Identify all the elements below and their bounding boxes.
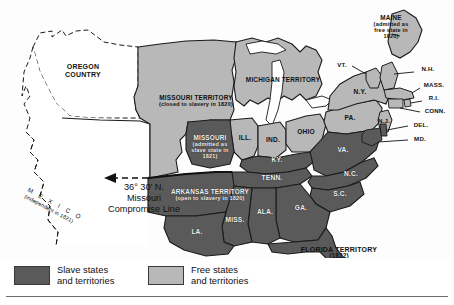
legend-swatch-slave — [14, 266, 50, 285]
leader-ri — [411, 101, 422, 103]
leader-mass — [412, 88, 420, 93]
state-maryland — [362, 128, 382, 146]
missouri-compromise-line-label: 36° 30′ N. Missouri Compromise Line — [84, 182, 204, 216]
legend-item-slave: Slave states and territories — [14, 264, 114, 286]
compromise-line3: Compromise Line — [84, 204, 204, 215]
free-region-group — [134, 10, 422, 178]
legend-label-slave: Slave states and territories — [57, 264, 114, 286]
state-indiana — [258, 122, 286, 158]
state-connecticut — [388, 99, 403, 108]
compromise-degrees: 36° 30′ N. — [84, 182, 204, 193]
leader-vt — [352, 66, 366, 74]
state-rhode-island — [404, 99, 411, 107]
legend-item-free: Free states and territories — [148, 264, 248, 286]
map-legend: Slave states and territories Free states… — [0, 258, 454, 305]
state-new-hampshire — [380, 62, 398, 90]
state-alabama — [248, 188, 280, 244]
leader-conn — [400, 108, 420, 112]
state-massachusetts — [384, 88, 414, 100]
legend-divider — [6, 296, 448, 297]
missouri-compromise-map: OREGON COUNTRY MISSOURI TERRITORY (close… — [0, 0, 454, 305]
state-louisiana — [164, 212, 234, 256]
leader-md — [378, 140, 408, 142]
state-missouri — [186, 120, 234, 168]
compromise-line2: Missouri — [84, 193, 204, 204]
legend-label-free: Free states and territories — [191, 264, 248, 286]
state-illinois — [230, 118, 258, 160]
legend-swatch-free — [148, 266, 184, 285]
